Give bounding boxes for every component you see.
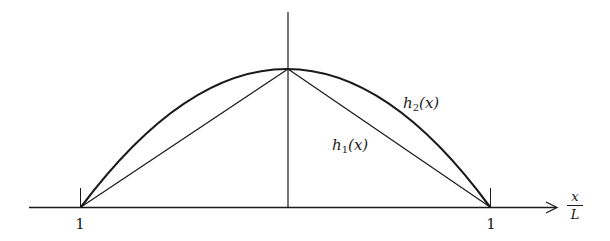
svg-text:h1(x): h1(x) [332,136,368,155]
h2-label-base: h [403,94,413,112]
x-label-numerator: x [571,189,579,204]
h2-label-arg: (x) [419,94,439,112]
h1-label: h1(x) [332,136,368,155]
diagram-canvas: 1 1 x L h2(x) h1(x) [0,0,610,241]
h1-label-arg: (x) [348,136,368,154]
left-tick-label: 1 [75,215,85,233]
right-tick-label: 1 [486,215,496,233]
h2-label: h2(x) [403,94,439,113]
h1-label-base: h [332,136,342,154]
h2-curve [81,69,490,207]
svg-text:h2(x): h2(x) [403,94,439,113]
x-label-denominator: L [570,207,580,222]
